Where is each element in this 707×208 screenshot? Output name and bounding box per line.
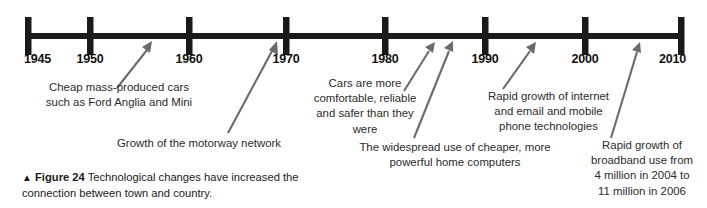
tick-label-1990: 1990 <box>471 52 498 66</box>
annotation-internet-mobile: Rapid growth of internet and email and m… <box>470 89 627 135</box>
annotation-cheap-cars: Cheap mass-produced cars such as Ford An… <box>24 80 214 110</box>
tick-mark-2010 <box>678 17 685 55</box>
leader-arrow-internet-mobile <box>503 42 536 89</box>
tick-mark-1970 <box>283 17 290 55</box>
tick-mark-2000 <box>582 17 589 55</box>
tick-label-1970: 1970 <box>272 52 299 66</box>
caption-figure-label: Figure 24 <box>35 171 85 183</box>
tick-mark-1990 <box>482 17 489 55</box>
tick-label-2010: 2010 <box>659 52 686 66</box>
tick-mark-1950 <box>87 17 94 55</box>
annotation-motorway-network: Growth of the motorway network <box>117 136 343 151</box>
tick-mark-1980 <box>382 17 389 55</box>
leader-arrow-motorway-network <box>228 41 278 133</box>
figure-caption: ▲ Figure 24 Technological changes have i… <box>22 170 322 201</box>
caption-triangle-icon: ▲ <box>22 172 32 183</box>
tick-label-1950: 1950 <box>76 52 103 66</box>
tick-mark-1945 <box>25 17 32 55</box>
annotation-cars-comfortable: Cars are more comfortable, reliable and … <box>304 76 426 137</box>
annotation-broadband: Rapid growth of broadband use from 4 mil… <box>581 138 703 199</box>
tick-mark-1960 <box>186 17 193 55</box>
tick-label-1945: 1945 <box>24 52 51 66</box>
annotation-home-computers: The widespread use of cheaper, more powe… <box>349 140 561 170</box>
figure-timeline: 1945 1950 1960 1970 1980 1990 2000 2010 … <box>0 0 707 208</box>
tick-label-1980: 1980 <box>371 52 398 66</box>
tick-label-2000: 2000 <box>571 52 598 66</box>
tick-label-1960: 1960 <box>175 52 202 66</box>
